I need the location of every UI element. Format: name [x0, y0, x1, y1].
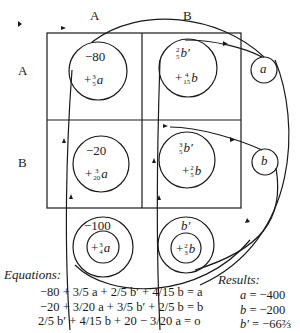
- cell-ba-top: −20: [86, 143, 106, 159]
- equation-line: 2/5 b′ + 4/15 b + 20 − 3/20 a = o: [38, 314, 203, 329]
- arrow-head: [152, 158, 156, 163]
- fraction: 35: [92, 74, 96, 88]
- fraction: 34: [99, 242, 103, 256]
- fraction: 25: [190, 165, 194, 179]
- result-line: b′ = −66⅔: [240, 317, 291, 332]
- fraction: 23: [184, 243, 188, 257]
- cell-ab-bottom: +415b: [175, 70, 198, 86]
- node-b-label: b: [261, 153, 268, 169]
- equations-block: Equations:: [4, 267, 61, 283]
- results-list: a = −400 b = −200 b′ = −66⅔: [240, 288, 291, 332]
- arrow-head: [245, 218, 250, 223]
- node-a-label: a: [260, 61, 267, 77]
- cell-ab-top: 25b′: [175, 45, 190, 61]
- equation-line: −80 + 3/5 a + 2/5 b′ + 4/15 b = a: [40, 285, 203, 300]
- row-label-b: B: [18, 155, 27, 171]
- fraction: 320: [93, 168, 100, 182]
- result-line: a = −400: [240, 288, 291, 303]
- col-a-total-top: −100: [84, 218, 111, 234]
- cell-ba-bottom: +320a: [85, 166, 108, 182]
- arrow-head: [18, 21, 22, 27]
- fraction: 35: [179, 142, 183, 156]
- column-label-b: B: [183, 8, 192, 24]
- equations-list: −80 + 3/5 a + 2/5 b′ + 4/15 b = a −20 + …: [40, 285, 203, 329]
- col-b-total-top: b′: [181, 218, 190, 234]
- col-b-total-inner: +23b: [176, 241, 195, 257]
- column-label-a: A: [90, 8, 99, 24]
- cell-bb-bottom: +25b: [182, 163, 201, 179]
- equation-line: −20 + 3/20 a + 3/5 b′ + 2/5 b = b: [40, 300, 203, 315]
- results-title: Results:: [218, 272, 260, 288]
- arrow-head: [69, 194, 73, 199]
- results-block: Results:: [218, 272, 260, 288]
- row-label-a: A: [18, 63, 27, 79]
- cell-aa-bottom: +35a: [84, 72, 103, 88]
- cell-aa-top: −80: [85, 49, 105, 65]
- cell-bb-top: 35b′: [178, 140, 193, 156]
- col-a-total-inner: +34a: [91, 240, 110, 256]
- arrow-head: [163, 124, 168, 128]
- arrow-head: [62, 138, 66, 143]
- fraction: 25: [176, 47, 180, 61]
- fraction: 415: [183, 72, 190, 86]
- result-line: b = −200: [240, 303, 291, 318]
- equations-title: Equations:: [4, 267, 61, 283]
- arrow-head: [61, 26, 66, 30]
